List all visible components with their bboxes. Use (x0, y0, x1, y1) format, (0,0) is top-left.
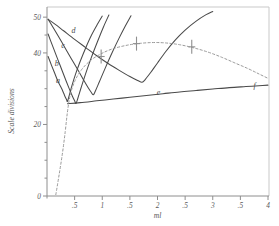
curve-label-b: b (55, 59, 59, 68)
plot-border (47, 7, 269, 196)
x-tick-label: 3 (210, 201, 215, 210)
chart-svg: .51.52.53.540204050abcdefmlScale divisio… (0, 0, 279, 226)
chart-curves (48, 11, 268, 194)
curve-label-a: a (56, 76, 60, 85)
y-tick-label: 40 (34, 49, 42, 58)
x-tick-label: .5 (127, 201, 133, 210)
curve-label-e: e (157, 88, 161, 97)
chart-ticks (43, 17, 268, 200)
curve-c (48, 16, 131, 95)
x-tick-label: 4 (266, 201, 270, 210)
chart-figure: .51.52.53.540204050abcdefmlScale divisio… (0, 0, 279, 226)
curve-f (56, 43, 268, 195)
curve-label-d: d (72, 26, 77, 35)
y-tick-label: 0 (37, 192, 41, 201)
x-tick-label: .5 (182, 201, 188, 210)
x-tick-label: .5 (72, 201, 78, 210)
curve-e (67, 85, 268, 104)
axis-lines (47, 7, 269, 196)
x-tick-label: 2 (156, 201, 160, 210)
chart-frame (47, 7, 269, 196)
chart-markers (98, 37, 196, 64)
y-axis-title: Scale divisions (7, 88, 16, 133)
x-axis-title: ml (154, 211, 162, 220)
x-tick-label: .5 (238, 201, 244, 210)
y-tick-label: 20 (34, 120, 42, 129)
curve-label-c: c (61, 41, 65, 50)
y-tick-label: 50 (34, 13, 42, 22)
x-tick-label: 1 (100, 201, 104, 210)
